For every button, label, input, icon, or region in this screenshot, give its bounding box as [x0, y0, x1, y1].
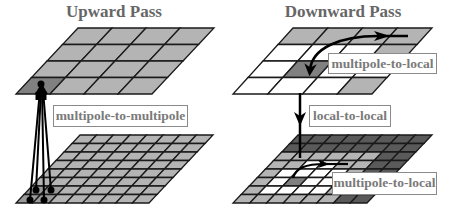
parent-dot [38, 81, 45, 88]
child-dot [41, 197, 48, 204]
downward-pass-title: Downward Pass [278, 2, 408, 22]
child-dot [27, 197, 34, 204]
m2m-label: multipole-to-multipole [53, 105, 188, 127]
upward-pass-title: Upward Pass [58, 2, 170, 22]
l2l-label: local-to-local [309, 105, 391, 127]
m2l-label-bottom: multipole-to-local [332, 172, 437, 195]
upward-fine-grid [16, 135, 213, 203]
fmm-diagram: Upward Pass Downward Pass multipole-to-m… [0, 0, 449, 217]
child-dot [48, 187, 55, 194]
child-dot [33, 187, 40, 194]
m2l-label-top: multipole-to-local [328, 53, 437, 74]
upward-coarse-grid [16, 28, 214, 94]
